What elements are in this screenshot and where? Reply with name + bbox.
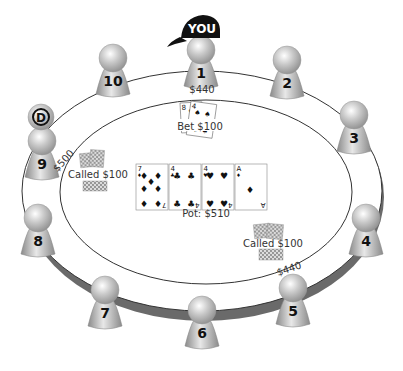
svg-text:8: 8 [182,104,187,112]
seat-2: 2 [270,46,304,99]
card-pip: ♦ [154,171,162,181]
svg-text:7: 7 [162,201,166,209]
poker-table-diagram: 12345678910 YOU D $440 $500 $440 8 ♥ ♥ 4… [0,0,403,371]
seat-number: 10 [103,73,123,89]
seat-number: 8 [33,233,43,249]
seat-number: 6 [197,325,207,341]
board-card: 4♥♥♥♥♥4 [202,164,234,210]
seat-number: 2 [282,75,292,91]
seat-number: 4 [361,233,371,249]
svg-text:♠: ♠ [204,110,211,119]
card-pip: ♦ [140,199,148,209]
card-pip: ♣ [173,199,181,209]
action-seat-5: Called $100 [243,238,303,249]
seat-6: 6 [185,296,219,349]
seat-10: 10 [96,44,130,97]
you-label: YOU [187,22,216,36]
seat-number: 7 [100,305,110,321]
action-seat-1: Bet $100 [177,121,223,132]
seat-1: 1 [184,36,218,89]
card-pip: ♦ [140,184,148,194]
dealer-button-label: D [36,111,46,125]
seat-number: 1 [196,65,206,81]
card-pip: ♦ [154,184,162,194]
stack-seat-1: $440 [189,84,214,95]
svg-text:♦: ♦ [236,172,240,178]
card-pip: ♣ [173,171,181,181]
pot-label: Pot: $510 [182,208,230,219]
card-pip: ♦ [154,199,162,209]
seat-number: 3 [349,130,359,146]
card-pip: ♥ [206,171,214,181]
svg-text:♠: ♠ [194,109,201,118]
dealer-button: D [28,104,54,130]
board-card: 4♣♣♣♣♣4 [169,164,201,210]
seat-number: 5 [288,303,298,319]
card-pip: ♥ [220,171,228,181]
card-pip: ♦ [246,185,254,195]
card-pip: ♣ [187,171,195,181]
board-card: A♦♦A [235,164,267,210]
svg-text:A: A [261,201,266,209]
board-card: 7♦♦♦♦♦♦♦♦7 [136,164,168,210]
seat-number: 9 [37,156,47,172]
action-seat-9: Called $100 [68,169,128,180]
